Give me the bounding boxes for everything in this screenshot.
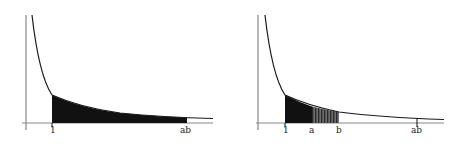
left-label-ab: ab (180, 125, 191, 135)
left-shaded-area (52, 95, 187, 123)
right-label-ab: ab (411, 125, 422, 135)
right-label-1: 1 (283, 125, 289, 135)
right-label-a: a (309, 125, 315, 135)
diagram-canvas: 1 ab 1 a b ab (0, 0, 469, 155)
left-label-1: 1 (50, 125, 56, 135)
right-diagram: 1 a b ab (256, 15, 444, 135)
left-diagram: 1 ab (22, 15, 213, 135)
right-label-b: b (336, 125, 342, 135)
right-solid-area (285, 95, 312, 123)
